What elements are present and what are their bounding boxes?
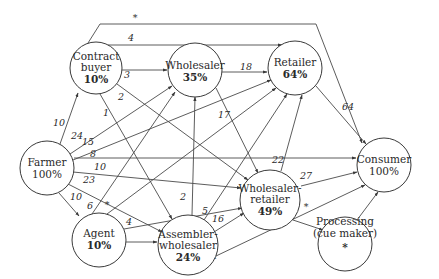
svg-text:Farmer: Farmer [27, 156, 67, 168]
svg-text:(cue maker): (cue maker) [313, 227, 377, 239]
label-ws-rt: 18 [240, 61, 252, 72]
label-fa-wr: 10 [94, 161, 106, 172]
node-contract-buyer: Contract buyer 10% [70, 42, 122, 94]
svg-text:wholesaler: wholesaler [159, 239, 218, 251]
label-ag-ws: 6 [87, 200, 93, 211]
svg-text:35%: 35% [183, 71, 208, 83]
marketing-channel-diagram: * 4 3 18 64 10 24 15 8 10 23 10 2 1 17 2… [0, 0, 439, 279]
svg-text:Processing: Processing [316, 215, 374, 227]
label-fa-cb: 10 [53, 117, 65, 128]
edge-wholesaler-to-wholesaler-retailer [216, 88, 258, 173]
node-assembler-wholesaler: Assembler- wholesaler 24% [157, 215, 218, 275]
svg-text:*: * [342, 241, 348, 253]
label-fa-aw: 23 [82, 174, 95, 185]
svg-text:49%: 49% [258, 205, 283, 217]
label-ws-wr: 17 [218, 109, 231, 120]
svg-text:10%: 10% [84, 73, 109, 85]
label-wr-co: 27 [299, 170, 313, 181]
edge-farmer-to-wholesaler-retailer [73, 172, 241, 188]
svg-text:64%: 64% [283, 68, 308, 80]
node-farmer: Farmer 100% [20, 141, 74, 195]
svg-text:Wholesaler: Wholesaler [165, 59, 226, 71]
label-cb-aw: 1 [103, 107, 109, 118]
svg-text:24%: 24% [176, 251, 201, 263]
svg-text:100%: 100% [369, 165, 399, 177]
edge-retailer-to-consumer [316, 86, 366, 144]
svg-text:Consumer: Consumer [357, 153, 412, 165]
edge-contract-buyer-to-wholesaler-retailer [117, 84, 248, 180]
label-cb-wr: 2 [117, 91, 124, 102]
label-aw-ws: 2 [179, 191, 186, 202]
label-fa-co: 8 [90, 148, 96, 159]
node-retailer: Retailer 64% [268, 41, 322, 95]
label-wr-pr: * [304, 201, 309, 212]
edge-wholesaler-retailer-to-retailer [281, 95, 302, 171]
label-aw-wr: 16 [212, 213, 224, 224]
node-wholesaler-retailer: Wholesaler- retailer 49% [238, 170, 302, 230]
edge-assembler-wholesaler-to-wholesaler [192, 97, 195, 215]
node-processing: Processing (cue maker) * [313, 215, 377, 271]
label-wr-rt: 22 [271, 154, 284, 165]
svg-text:buyer: buyer [81, 61, 113, 73]
label-ag-rt: * [105, 199, 110, 210]
node-agent: Agent 10% [72, 213, 126, 267]
label-cb-ws: 3 [124, 69, 130, 80]
label-fa-ag: 10 [70, 191, 82, 202]
svg-text:Agent: Agent [82, 227, 115, 239]
node-consumer: Consumer 100% [357, 138, 412, 192]
label-ag-wr: 4 [125, 216, 132, 227]
label-aw-rt: 5 [202, 205, 208, 216]
svg-text:10%: 10% [87, 239, 112, 251]
svg-text:retailer: retailer [250, 193, 291, 205]
svg-text:100%: 100% [32, 168, 62, 180]
label-cb-rt: 4 [127, 32, 134, 43]
label-rt-co: 64 [342, 101, 354, 112]
svg-text:Retailer: Retailer [274, 56, 318, 68]
label-fa-rt: 15 [82, 136, 94, 147]
label-cb-co: * [133, 12, 138, 23]
